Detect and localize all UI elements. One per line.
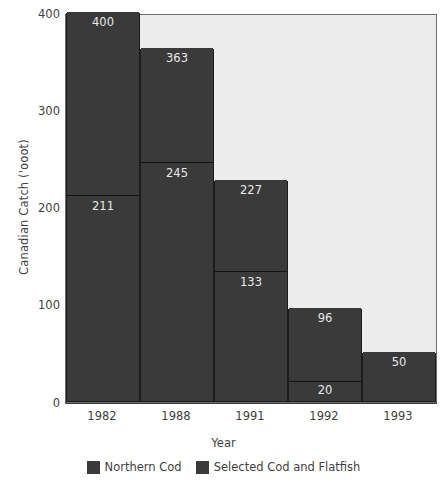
bar-1993-total-label: 50 <box>363 357 435 369</box>
bar-1988-segment-upper: 363 <box>141 48 213 163</box>
bar-1992-segment-lower: 20 <box>289 382 361 401</box>
y-tick-label-300: 300 <box>26 106 60 118</box>
bar-1982[interactable]: 400 211 <box>66 13 140 402</box>
x-axis-title: Year <box>0 436 447 450</box>
bar-1993[interactable]: 50 <box>362 353 436 402</box>
bar-1991-segment-upper: 227 <box>215 180 287 272</box>
bar-1991-lower-label: 133 <box>215 277 287 289</box>
bar-chart-figure: Canadian Catch ('ooot) 400 300 200 100 0… <box>0 0 447 491</box>
bar-1982-segment-upper: 400 <box>67 12 139 196</box>
x-tick-label-1991: 1991 <box>213 411 287 423</box>
bar-1991-total-label: 227 <box>215 185 287 197</box>
y-tick-label-100: 100 <box>26 300 60 312</box>
legend-entry-selected-cod-and-flatfish[interactable]: Selected Cod and Flatfish <box>196 461 361 474</box>
legend-entry-northern-cod[interactable]: Northern Cod <box>87 461 182 474</box>
bar-1988-lower-label: 245 <box>141 168 213 180</box>
legend-label-selected-cod-and-flatfish: Selected Cod and Flatfish <box>214 462 361 474</box>
bar-1988[interactable]: 363 245 <box>140 49 214 402</box>
bar-1988-segment-lower: 245 <box>141 163 213 401</box>
bar-1988-total-label: 363 <box>141 53 213 65</box>
bar-1982-total-label: 400 <box>67 17 139 29</box>
chart-legend: Northern Cod Selected Cod and Flatfish <box>0 461 447 474</box>
bar-1992-segment-upper: 96 <box>289 308 361 382</box>
x-tick-label-1993: 1993 <box>361 411 435 423</box>
y-axis-ticks: 400 300 200 100 0 <box>22 0 60 491</box>
x-tick-label-1982: 1982 <box>65 411 139 423</box>
y-tick-label-200: 200 <box>26 203 60 215</box>
bar-1992[interactable]: 96 20 <box>288 309 362 402</box>
bar-1991-segment-lower: 133 <box>215 272 287 401</box>
legend-swatch-icon-northern-cod <box>87 461 100 474</box>
bar-1992-lower-label: 20 <box>289 385 361 397</box>
x-tick-label-1988: 1988 <box>139 411 213 423</box>
bar-1982-segment-lower: 211 <box>67 196 139 401</box>
y-tick-label-0: 0 <box>26 398 60 410</box>
x-axis-line <box>65 403 437 404</box>
y-tick-label-400: 400 <box>26 9 60 21</box>
bar-1991[interactable]: 227 133 <box>214 181 288 402</box>
legend-swatch-icon-selected-cod-and-flatfish <box>196 461 209 474</box>
bar-1993-segment: 50 <box>363 352 435 401</box>
legend-label-northern-cod: Northern Cod <box>105 462 182 474</box>
x-tick-label-1992: 1992 <box>287 411 361 423</box>
plot-area: 400 211 363 245 227 133 <box>65 14 437 403</box>
bar-1982-lower-label: 211 <box>67 201 139 213</box>
bar-1992-total-label: 96 <box>289 313 361 325</box>
